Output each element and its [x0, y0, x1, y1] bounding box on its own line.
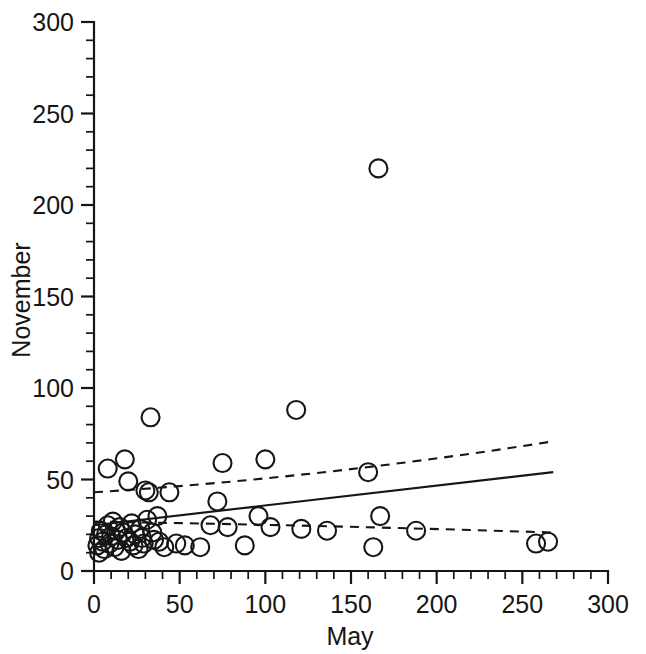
data-point-marker [116, 450, 134, 468]
data-point-marker [359, 463, 377, 481]
data-point-marker [219, 518, 237, 536]
data-points [88, 159, 557, 561]
data-point-marker [407, 522, 425, 540]
y-tick-label: 300 [32, 8, 74, 36]
y-tick-label: 200 [32, 191, 74, 219]
data-point-marker [142, 408, 160, 426]
y-axis [81, 22, 94, 571]
x-axis-tick-labels: 050100150200250300 [87, 590, 629, 618]
y-tick-label: 50 [46, 466, 74, 494]
x-tick-label: 300 [587, 590, 629, 618]
data-point-marker [208, 492, 226, 510]
scatter-plot-figure: 050100150200250300 050100150200250300 No… [0, 0, 646, 654]
x-tick-label: 250 [501, 590, 543, 618]
data-point-marker [287, 401, 305, 419]
data-point-marker [292, 520, 310, 538]
data-point-marker [249, 507, 267, 525]
x-axis-title: May [326, 622, 374, 650]
data-point-marker [119, 472, 137, 490]
x-tick-label: 200 [416, 590, 458, 618]
x-tick-label: 100 [244, 590, 286, 618]
x-tick-label: 150 [330, 590, 372, 618]
plot-canvas: 050100150200250300 050100150200250300 No… [0, 0, 646, 654]
data-point-marker [318, 522, 336, 540]
y-tick-label: 250 [32, 100, 74, 128]
data-point-marker [371, 507, 389, 525]
data-point-marker [364, 538, 382, 556]
x-axis [94, 571, 608, 584]
data-point-marker [160, 483, 178, 501]
y-tick-label: 150 [32, 283, 74, 311]
y-axis-title: November [7, 242, 35, 357]
x-tick-label: 50 [166, 590, 194, 618]
y-tick-label: 100 [32, 374, 74, 402]
data-point-marker [202, 516, 220, 534]
data-point-marker [256, 450, 274, 468]
data-point-marker [99, 460, 117, 478]
y-tick-label: 0 [60, 557, 74, 585]
data-point-marker [261, 518, 279, 536]
data-point-marker [214, 454, 232, 472]
y-axis-tick-labels: 050100150200250300 [32, 8, 74, 585]
x-tick-label: 0 [87, 590, 101, 618]
data-point-marker [369, 159, 387, 177]
data-point-marker [236, 536, 254, 554]
data-point-marker [539, 533, 557, 551]
